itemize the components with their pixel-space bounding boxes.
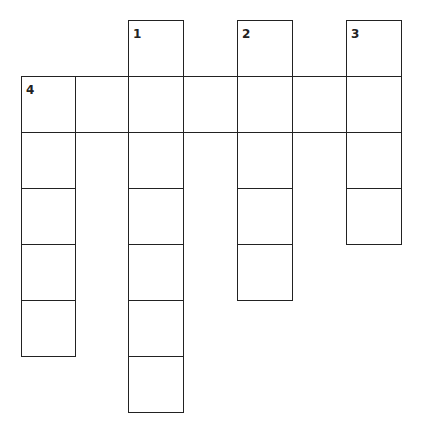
cell-letter-input[interactable] xyxy=(22,301,75,356)
cell-letter-input[interactable] xyxy=(22,189,75,244)
crossword-cell[interactable] xyxy=(346,188,402,245)
cell-letter-input[interactable] xyxy=(129,189,183,244)
cell-letter-input[interactable] xyxy=(129,357,183,412)
crossword-cell[interactable] xyxy=(237,244,293,301)
crossword-cell[interactable] xyxy=(128,76,184,133)
crossword-cell[interactable]: 2 xyxy=(237,20,293,77)
cell-letter-input[interactable] xyxy=(293,77,346,132)
cell-letter-input[interactable] xyxy=(238,245,292,300)
crossword-cell[interactable] xyxy=(21,132,76,189)
crossword-cell[interactable] xyxy=(237,188,293,245)
crossword-cell[interactable] xyxy=(21,188,76,245)
cell-letter-input[interactable] xyxy=(238,21,292,76)
crossword-cell[interactable] xyxy=(346,76,402,133)
cell-letter-input[interactable] xyxy=(22,133,75,188)
crossword-cell[interactable] xyxy=(128,356,184,413)
cell-letter-input[interactable] xyxy=(129,301,183,356)
crossword-cell[interactable] xyxy=(128,132,184,189)
crossword-cell[interactable]: 3 xyxy=(346,20,402,77)
cell-letter-input[interactable] xyxy=(22,77,75,132)
crossword-cell[interactable] xyxy=(346,132,402,189)
cell-letter-input[interactable] xyxy=(129,245,183,300)
crossword-cell[interactable]: 4 xyxy=(21,76,76,133)
cell-letter-input[interactable] xyxy=(184,77,237,132)
cell-letter-input[interactable] xyxy=(347,77,401,132)
crossword-cell[interactable] xyxy=(128,244,184,301)
cell-letter-input[interactable] xyxy=(238,189,292,244)
crossword-cell[interactable] xyxy=(128,300,184,357)
cell-letter-input[interactable] xyxy=(238,77,292,132)
cell-letter-input[interactable] xyxy=(129,77,183,132)
crossword-cell[interactable] xyxy=(292,76,347,133)
crossword-cell[interactable] xyxy=(75,76,129,133)
cell-letter-input[interactable] xyxy=(129,21,183,76)
crossword-cell[interactable] xyxy=(21,300,76,357)
cell-letter-input[interactable] xyxy=(238,133,292,188)
crossword-grid: 1234 xyxy=(0,0,422,432)
cell-letter-input[interactable] xyxy=(347,189,401,244)
crossword-cell[interactable] xyxy=(237,132,293,189)
cell-letter-input[interactable] xyxy=(347,21,401,76)
cell-letter-input[interactable] xyxy=(129,133,183,188)
crossword-cell[interactable] xyxy=(128,188,184,245)
cell-letter-input[interactable] xyxy=(76,77,128,132)
crossword-cell[interactable] xyxy=(183,76,238,133)
cell-letter-input[interactable] xyxy=(22,245,75,300)
cell-letter-input[interactable] xyxy=(347,133,401,188)
crossword-cell[interactable] xyxy=(237,76,293,133)
crossword-cell[interactable]: 1 xyxy=(128,20,184,77)
crossword-cell[interactable] xyxy=(21,244,76,301)
